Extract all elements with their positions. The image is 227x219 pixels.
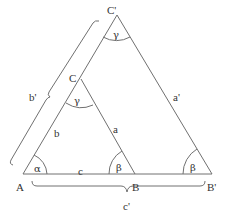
- side-label-a: a: [113, 123, 118, 135]
- angle-label-gamma-large: γ: [113, 29, 119, 40]
- vertex-label-b-prime: B': [207, 181, 216, 193]
- vertex-label-c: C: [69, 72, 76, 84]
- side-b-prime-line: [23, 15, 117, 174]
- angle-label-alpha: α: [34, 163, 41, 174]
- side-label-c-prime: c': [123, 200, 130, 212]
- side-label-c: c: [78, 165, 83, 177]
- side-a-prime-line: [117, 15, 212, 174]
- brace-b-prime: [10, 21, 99, 165]
- brace-c-prime: [32, 181, 205, 192]
- vertex-label-a: A: [16, 181, 24, 193]
- angle-label-beta-large: β: [190, 162, 196, 173]
- side-a-line: [81, 79, 135, 174]
- side-label-b-prime: b': [29, 91, 37, 103]
- angle-label-gamma-small: γ: [74, 95, 80, 106]
- similar-triangles-diagram: C' C A B B' b' a' b a c c' α β β γ γ: [0, 0, 227, 219]
- vertex-label-b: B: [132, 181, 139, 193]
- angle-label-beta-small: β: [116, 162, 122, 173]
- vertex-label-c-prime: C': [107, 4, 116, 16]
- side-label-b: b: [54, 127, 60, 139]
- side-label-a-prime: a': [173, 91, 180, 103]
